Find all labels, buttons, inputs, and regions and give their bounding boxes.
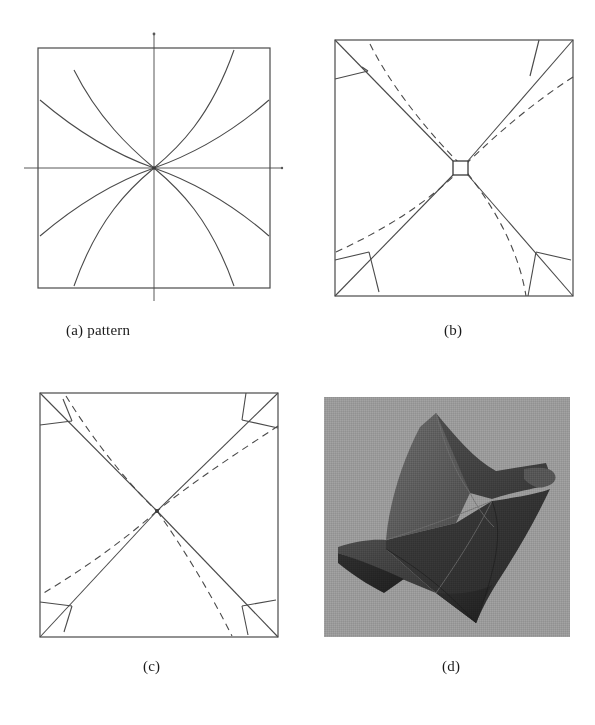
spur-top-right-a [242, 393, 246, 420]
folded-model-photo [324, 397, 570, 637]
spur-bottom-left-a [335, 252, 369, 260]
caption-panel-b: (b) [444, 322, 462, 339]
panel-b-drawing [322, 24, 584, 306]
spur-top-right-b [242, 420, 278, 428]
spur-bottom-left-a [40, 602, 72, 606]
diagonal-bl [40, 511, 157, 637]
crease-ll-shallow [40, 168, 154, 236]
dashed-curve-bottom-left [336, 169, 461, 252]
y-axis-tip [153, 33, 156, 36]
dashed-curve-top-right [461, 77, 573, 169]
spur-top-left [335, 71, 368, 79]
caption-panel-c: (c) [143, 658, 160, 675]
spur-bottom-right-b [528, 252, 536, 296]
crease-ur-shallow [154, 100, 269, 168]
panel-c-drawing [26, 380, 288, 650]
center-point [155, 509, 159, 513]
diagonal-tr [157, 393, 278, 511]
photo-grain-overlay [324, 397, 570, 637]
dashed-curve-top-left [66, 396, 157, 511]
panel-c-folded-step [26, 380, 288, 650]
figure-grid: (a) pattern [0, 0, 595, 725]
pattern-center-point [152, 166, 156, 170]
panel-a-pattern [24, 30, 284, 302]
spur-top-left-a [40, 421, 72, 425]
spur-bottom-left-b [369, 252, 379, 292]
panel-a-drawing [24, 30, 284, 302]
spur-bottom-right-b [242, 606, 248, 635]
center-square [453, 161, 468, 175]
panel-d-photograph [324, 397, 570, 637]
dashed-curve-bottom-left [42, 511, 157, 594]
diagonal-tr [467, 40, 573, 162]
panel-b-folded-step [322, 24, 584, 306]
crease-ul-steep [74, 70, 154, 168]
diagonal-bl [335, 175, 453, 296]
caption-panel-a: (a) pattern [66, 322, 130, 339]
spur-top-right [530, 40, 539, 76]
dashed-curve-bottom-right [157, 511, 232, 636]
crease-lr-shallow [154, 168, 269, 236]
diagonal-tl [335, 40, 453, 161]
dashed-curve-top-left [370, 44, 460, 164]
diagonal-br [157, 511, 278, 637]
x-axis-tip [281, 167, 283, 169]
dashed-curve-top-right [157, 426, 278, 511]
caption-panel-d: (d) [442, 658, 460, 675]
diagonal-br [467, 174, 573, 296]
spur-bottom-right-a [242, 600, 276, 606]
crease-ul-shallow [40, 100, 154, 168]
